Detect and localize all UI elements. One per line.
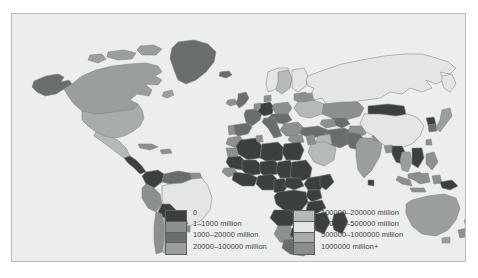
world-map-frame: 0 1–1000 million 1000–20000 million 2000… xyxy=(11,13,466,262)
legend-label-6: 500000–1000000 million xyxy=(321,229,403,240)
country-new-zealand-south xyxy=(458,228,465,238)
country-ireland xyxy=(226,99,237,106)
country-taiwan xyxy=(426,139,432,145)
screenshot-root: 0 1–1000 million 1000–20000 million 2000… xyxy=(0,0,478,278)
country-tunisia xyxy=(256,135,263,142)
country-vietnam xyxy=(412,148,424,168)
legend-label-7: 1000000 million+ xyxy=(321,241,403,252)
country-canada xyxy=(64,63,162,114)
map-legend: 0 1–1000 million 1000–20000 million 2000… xyxy=(154,207,454,259)
country-hispaniola xyxy=(160,149,172,154)
legend-label-0: 0 xyxy=(193,207,267,218)
country-iceland xyxy=(219,71,232,78)
legend-label-2: 1000–20000 million xyxy=(193,229,267,240)
country-ukraine xyxy=(294,100,324,118)
country-caucasus xyxy=(320,119,336,128)
country-philippines xyxy=(426,152,438,170)
legend-swatch-7 xyxy=(294,243,314,254)
legend-swatch-2 xyxy=(166,233,186,244)
legend-swatch-6 xyxy=(294,233,314,244)
country-india xyxy=(356,138,382,178)
country-car xyxy=(284,178,304,190)
country-greenland xyxy=(170,40,216,84)
country-united-kingdom xyxy=(236,92,249,108)
country-canada-arctic-2 xyxy=(137,45,162,55)
legend-labels-right: 100000–200000 million 200000–500000 mill… xyxy=(321,207,403,252)
country-kazakhstan xyxy=(322,102,364,120)
legend-swatch-5 xyxy=(294,222,314,233)
legend-labels-left: 0 1–1000 million 1000–20000 million 2000… xyxy=(193,207,267,252)
country-saudi-arabia xyxy=(308,142,336,166)
legend-swatch-4 xyxy=(294,211,314,222)
country-indonesia-java xyxy=(410,188,426,192)
legend-swatch-0 xyxy=(166,211,186,222)
country-japan xyxy=(436,108,452,132)
legend-label-4: 100000–200000 million xyxy=(321,207,403,218)
country-papua-new-guinea xyxy=(440,180,458,190)
country-thailand xyxy=(400,152,412,172)
country-central-america xyxy=(124,156,146,174)
country-kamchatka xyxy=(442,74,456,92)
country-somalia xyxy=(320,174,334,190)
legend-swatches-left xyxy=(165,210,187,255)
country-spain xyxy=(234,123,252,136)
country-north-korea xyxy=(426,117,436,125)
country-egypt xyxy=(282,142,304,160)
legend-label-3: 20000–100000 million xyxy=(193,241,267,252)
country-canada-newfoundland xyxy=(162,90,174,98)
country-sri-lanka xyxy=(368,180,374,186)
country-canada-arctic-1 xyxy=(107,50,136,60)
legend-swatch-1 xyxy=(166,222,186,233)
country-levant xyxy=(306,135,316,145)
country-denmark xyxy=(264,95,271,102)
country-cuba xyxy=(138,144,158,150)
legend-swatch-3 xyxy=(166,243,186,254)
country-canada-arctic-3 xyxy=(88,54,106,63)
country-south-korea xyxy=(428,124,437,132)
country-western-sahara xyxy=(226,148,238,157)
legend-label-5: 200000–500000 million xyxy=(321,218,403,229)
country-sweden xyxy=(276,70,292,94)
country-netherlands-belgium xyxy=(254,103,261,109)
country-poland xyxy=(272,102,292,114)
country-finland xyxy=(292,68,308,92)
legend-swatches-right xyxy=(293,210,315,255)
country-new-zealand-north xyxy=(464,218,465,227)
country-libya xyxy=(260,142,284,162)
country-indonesia-borneo xyxy=(414,173,430,184)
legend-label-1: 1–1000 million xyxy=(193,218,267,229)
country-russia xyxy=(306,54,456,104)
